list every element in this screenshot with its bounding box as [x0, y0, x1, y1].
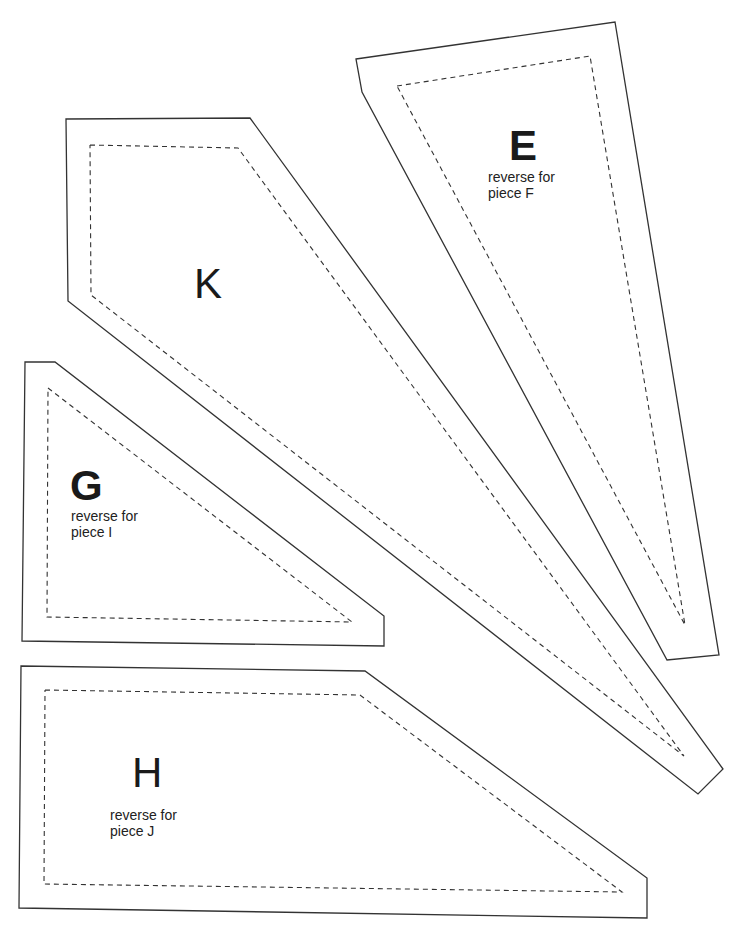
piece-e-note-line2: piece F	[488, 185, 534, 201]
piece-k-seam-line	[90, 145, 684, 756]
pattern-sheet: E reverse for piece F K G reverse for pi…	[0, 0, 742, 929]
piece-g-note-line1: reverse for	[71, 508, 138, 524]
pattern-piece-g: G reverse for piece I	[22, 362, 384, 646]
piece-e-label: E	[509, 122, 537, 169]
pattern-piece-e: E reverse for piece F	[356, 22, 719, 660]
piece-h-seam-line	[44, 690, 622, 892]
piece-e-note-line1: reverse for	[488, 169, 555, 185]
piece-h-note-line1: reverse for	[110, 807, 177, 823]
piece-h-label: H	[132, 749, 162, 796]
piece-h-note-line2: piece J	[110, 823, 154, 839]
piece-h-cut-line	[19, 666, 647, 918]
piece-k-label: K	[194, 260, 222, 307]
piece-e-seam-line	[397, 56, 685, 625]
piece-g-label: G	[70, 462, 103, 509]
pattern-piece-h: H reverse for piece J	[19, 666, 647, 918]
piece-g-note-line2: piece I	[71, 524, 112, 540]
piece-e-cut-line	[356, 22, 719, 660]
